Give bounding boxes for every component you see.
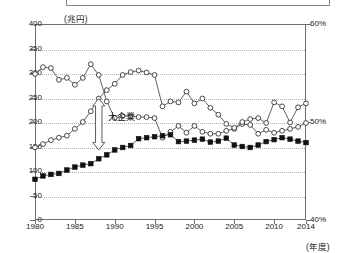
data-point-filled-square: [88, 161, 93, 166]
data-point-open-circle: [41, 65, 46, 70]
data-point-filled-square: [57, 171, 62, 176]
data-point-filled-square: [41, 174, 46, 179]
data-point-open-circle: [144, 70, 149, 75]
x-axis-unit-label: (年度): [306, 240, 330, 252]
data-point-filled-square: [216, 139, 221, 144]
data-point-open-circle: [272, 130, 277, 135]
data-point-open-circle: [136, 68, 141, 73]
data-point-open-circle: [136, 115, 141, 120]
data-point-open-circle: [88, 62, 93, 67]
data-point-open-circle: [216, 131, 221, 136]
data-point-open-circle: [152, 116, 157, 121]
annotation-large-enterprise-label: 大企業: [108, 110, 135, 123]
data-point-open-circle: [120, 73, 125, 78]
data-point-open-circle: [64, 133, 69, 138]
data-point-open-circle: [57, 135, 62, 140]
data-point-open-circle: [304, 101, 309, 106]
data-point-filled-square: [208, 140, 213, 145]
data-point-open-circle: [288, 126, 293, 131]
data-point-open-circle: [288, 120, 293, 125]
data-point-filled-square: [248, 145, 253, 150]
data-point-open-circle: [112, 81, 117, 86]
data-point-open-circle: [240, 120, 245, 125]
data-point-filled-square: [272, 137, 277, 142]
data-point-open-circle: [152, 73, 157, 78]
data-point-open-circle: [160, 104, 165, 109]
data-point-open-circle: [96, 73, 101, 78]
data-point-open-circle: [33, 72, 38, 77]
data-point-filled-square: [81, 163, 86, 168]
data-point-filled-square: [280, 135, 285, 140]
data-point-filled-square: [256, 143, 261, 148]
series-amount-open-circle-rising: [33, 68, 309, 150]
data-point-filled-square: [240, 144, 245, 149]
data-point-filled-square: [104, 153, 109, 158]
data-point-open-circle: [128, 70, 133, 75]
data-point-open-circle: [216, 112, 221, 117]
data-point-open-circle: [80, 76, 85, 81]
data-point-open-circle: [272, 100, 277, 105]
data-point-filled-square: [288, 137, 293, 142]
data-point-open-circle: [49, 138, 54, 143]
data-point-open-circle: [144, 115, 149, 120]
data-point-open-circle: [176, 124, 181, 129]
data-point-open-circle: [256, 131, 261, 136]
data-point-filled-square: [144, 135, 149, 140]
data-point-open-circle: [280, 104, 285, 109]
data-point-filled-square: [160, 133, 165, 138]
data-point-open-circle: [264, 127, 269, 132]
data-point-open-circle: [184, 130, 189, 135]
data-point-filled-square: [128, 143, 133, 148]
data-point-filled-square: [136, 136, 141, 141]
data-point-open-circle: [64, 76, 69, 81]
series-amount-filled-square: [33, 132, 309, 181]
data-point-open-circle: [256, 116, 261, 121]
data-point-open-circle: [168, 99, 173, 104]
data-point-open-circle: [57, 77, 62, 82]
chart-series-layer: [0, 0, 349, 253]
annotation-double-arrow: [93, 98, 105, 149]
data-point-open-circle: [304, 121, 309, 126]
data-point-filled-square: [184, 139, 189, 144]
data-point-filled-square: [33, 177, 38, 182]
data-point-open-circle: [296, 105, 301, 110]
data-point-open-circle: [208, 131, 213, 136]
data-point-open-circle: [33, 145, 38, 150]
data-point-open-circle: [192, 101, 197, 106]
data-point-open-circle: [208, 105, 213, 110]
data-point-open-circle: [280, 128, 285, 133]
data-point-filled-square: [296, 139, 301, 144]
data-point-filled-square: [192, 138, 197, 143]
data-point-open-circle: [104, 99, 109, 104]
data-point-filled-square: [152, 134, 157, 139]
data-point-open-circle: [176, 100, 181, 105]
data-point-open-circle: [224, 122, 229, 127]
data-point-open-circle: [232, 125, 237, 130]
data-point-filled-square: [65, 168, 70, 173]
data-point-open-circle: [200, 129, 205, 134]
data-point-open-circle: [248, 117, 253, 122]
data-point-open-circle: [49, 66, 54, 71]
data-point-open-circle: [224, 128, 229, 133]
data-point-open-circle: [200, 96, 205, 101]
data-point-filled-square: [264, 139, 269, 144]
data-point-filled-square: [232, 143, 237, 148]
data-point-filled-square: [73, 165, 78, 170]
data-point-filled-square: [120, 145, 125, 150]
data-point-open-circle: [248, 123, 253, 128]
data-point-open-circle: [104, 88, 109, 93]
data-point-open-circle: [72, 126, 77, 131]
data-point-open-circle: [72, 82, 77, 87]
data-point-open-circle: [192, 124, 197, 129]
data-point-filled-square: [224, 136, 229, 141]
data-point-open-circle: [264, 121, 269, 126]
data-point-filled-square: [96, 156, 101, 161]
data-point-filled-square: [304, 140, 309, 145]
data-point-open-circle: [88, 109, 93, 114]
data-point-open-circle: [184, 89, 189, 94]
data-point-filled-square: [168, 132, 173, 137]
data-point-open-circle: [41, 142, 46, 147]
data-point-open-circle: [80, 120, 85, 125]
data-point-filled-square: [49, 172, 54, 177]
data-point-filled-square: [112, 148, 117, 153]
